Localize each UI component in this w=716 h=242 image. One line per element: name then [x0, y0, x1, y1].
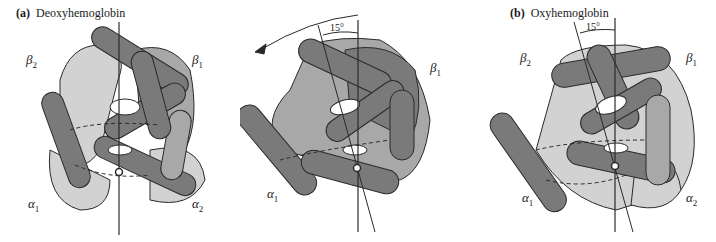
label-alpha1-b: α1 [522, 190, 533, 208]
oxy-structure-illustration [476, 0, 716, 242]
panel-transition: 15° β1 α1 [240, 0, 476, 242]
label-beta2: β2 [26, 52, 37, 70]
label-beta2-b: β2 [520, 50, 531, 68]
transition-structure-illustration [240, 0, 476, 242]
label-beta1-transition: β1 [430, 60, 441, 78]
label-beta1: β1 [192, 52, 203, 70]
label-alpha1-transition: α1 [267, 186, 278, 204]
panel-deoxyhemoglobin: (a) Deoxyhemoglobin β2 β1 α1 α2 [0, 0, 240, 242]
panel-oxyhemoglobin: (b) Oxyhemoglobin 15° β2 β1 α1 α2 [476, 0, 716, 242]
rotation-angle-label: 15° [330, 22, 344, 33]
label-alpha2: α2 [192, 196, 203, 214]
rotation-angle-label-b: 15° [586, 21, 600, 32]
label-alpha1: α1 [28, 196, 39, 214]
label-alpha2-b: α2 [686, 190, 697, 208]
label-beta1-b: β1 [686, 50, 697, 68]
